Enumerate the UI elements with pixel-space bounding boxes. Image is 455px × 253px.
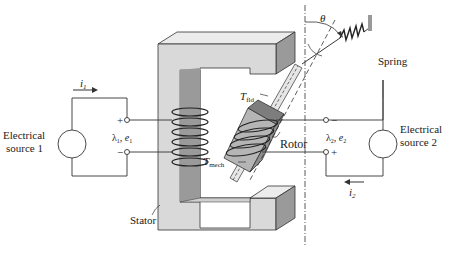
spring-anchor [368, 15, 372, 31]
terminal1-plus: + [117, 114, 123, 126]
spring-label: Spring [378, 55, 408, 67]
spring-leader [308, 44, 322, 56]
terminal1-minus: − [117, 146, 123, 158]
current-i1-label: i1 [80, 77, 87, 91]
tfld-leader [260, 94, 268, 96]
rotor-label: Rotor [280, 137, 307, 151]
left-source-line2: source 1 [6, 142, 43, 154]
terminal2-minus: − [331, 114, 337, 126]
terminal1-label: λ1, e1 [112, 132, 132, 144]
terminal2-plus: + [331, 146, 337, 158]
left-source-line1: Electrical [3, 129, 45, 141]
tmech-label: Tmech [203, 155, 225, 169]
right-source-line1: Electrical [400, 123, 442, 135]
stator-label: Stator [130, 214, 157, 226]
terminal2-label: λ2, e2 [326, 132, 346, 144]
current-i2-label: i2 [349, 186, 356, 200]
tfld-label: Tfld [240, 90, 254, 104]
right-source-line2: source 2 [400, 136, 437, 148]
rotor [224, 64, 302, 182]
electromechanical-system-diagram: i1 + − λ1, e1 Electrical source 1 − + λ2… [0, 0, 455, 253]
current-i2-arrow [344, 179, 364, 185]
theta-label: θ [320, 12, 326, 24]
